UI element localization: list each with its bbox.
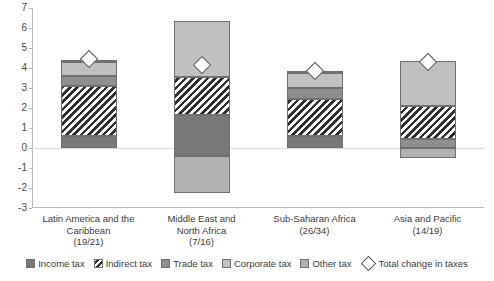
category-label-latin-america-and-the-caribbean: Latin America and theCaribbean(19/21)	[32, 213, 145, 248]
y-axis-tick-mark	[29, 188, 32, 189]
bar-segment-other[interactable]	[174, 156, 230, 193]
legend-item-corporate[interactable]: Corporate tax	[222, 258, 292, 269]
legend-label: Indirect tax	[106, 258, 152, 269]
category-label-line: Sub-Saharan Africa	[258, 213, 371, 225]
legend-label: Trade tax	[173, 258, 213, 269]
y-axis-tick-label: 4	[21, 63, 27, 73]
chart-legend: Income taxIndirect taxTrade taxCorporate…	[0, 258, 494, 269]
y-axis-tick-label: 2	[21, 103, 27, 113]
legend-item-income[interactable]: Income tax	[26, 258, 84, 269]
y-axis-tick-mark	[29, 108, 32, 109]
y-axis-tick-mark	[29, 28, 32, 29]
y-axis-tick-mark	[29, 168, 32, 169]
bar-segment-indirect[interactable]	[400, 106, 456, 139]
legend-label: Total change in taxes	[379, 258, 468, 269]
bar-asia-and-pacific[interactable]	[400, 8, 456, 208]
bar-segment-trade[interactable]	[287, 88, 343, 99]
category-label-line: North Africa	[145, 225, 258, 237]
category-label-line: Middle East and	[145, 213, 258, 225]
diamond-marker-icon	[360, 256, 376, 272]
bar-segment-indirect[interactable]	[61, 86, 117, 136]
bar-middle-east-and-north-africa[interactable]	[174, 8, 230, 208]
y-axis-tick-label: -3	[18, 203, 27, 213]
bar-segment-indirect[interactable]	[287, 99, 343, 136]
hatched-swatch-icon	[94, 259, 103, 268]
category-label-line: (7/16)	[145, 236, 258, 248]
square-swatch-icon	[161, 259, 170, 268]
bar-segment-indirect[interactable]	[174, 77, 230, 115]
y-axis-tick-label: 6	[21, 23, 27, 33]
bar-segment-other[interactable]	[400, 148, 456, 158]
category-label-sub-saharan-africa: Sub-Saharan Africa(26/34)	[258, 213, 371, 236]
bar-segment-income[interactable]	[287, 136, 343, 148]
y-axis-tick-label: 3	[21, 83, 27, 93]
y-axis-tick-mark	[29, 208, 32, 209]
category-label-line: Latin America and the	[32, 213, 145, 225]
y-axis-tick-label: -1	[18, 163, 27, 173]
category-label-line: (19/21)	[32, 236, 145, 248]
category-label-middle-east-and-north-africa: Middle East andNorth Africa(7/16)	[145, 213, 258, 248]
category-label-line: Caribbean	[32, 225, 145, 237]
bar-sub-saharan-africa[interactable]	[287, 8, 343, 208]
legend-label: Income tax	[38, 258, 84, 269]
plot-area: 76543210-1-2-3	[32, 8, 484, 208]
y-axis-tick-label: -2	[18, 183, 27, 193]
y-axis-tick-label: 7	[21, 3, 27, 13]
bar-segment-trade[interactable]	[61, 76, 117, 86]
y-axis-tick-mark	[29, 48, 32, 49]
y-axis-tick-mark	[29, 8, 32, 9]
legend-label: Corporate tax	[234, 258, 292, 269]
square-swatch-icon	[222, 259, 231, 268]
y-axis-tick-label: 5	[21, 43, 27, 53]
y-axis-tick-label: 1	[21, 123, 27, 133]
category-label-line: Asia and Pacific	[371, 213, 484, 225]
legend-item-diamond[interactable]: Total change in taxes	[361, 258, 468, 269]
bar-segment-trade[interactable]	[400, 139, 456, 148]
category-label-asia-and-pacific: Asia and Pacific(14/19)	[371, 213, 484, 236]
y-axis-tick-label: 0	[21, 143, 27, 153]
y-axis-tick-mark	[29, 68, 32, 69]
tax-change-stacked-bar-chart: 76543210-1-2-3 Latin America and theCari…	[0, 0, 494, 281]
square-swatch-icon	[300, 259, 309, 268]
y-axis-tick-mark	[29, 128, 32, 129]
y-axis-tick-mark	[29, 88, 32, 89]
category-label-line: (14/19)	[371, 225, 484, 237]
legend-item-trade[interactable]: Trade tax	[161, 258, 213, 269]
legend-item-other[interactable]: Other tax	[300, 258, 351, 269]
legend-item-indirect[interactable]: Indirect tax	[94, 258, 152, 269]
bar-segment-income[interactable]	[174, 115, 230, 156]
bar-latin-america-and-the-caribbean[interactable]	[61, 8, 117, 208]
bar-segment-income[interactable]	[61, 136, 117, 148]
legend-label: Other tax	[312, 258, 351, 269]
square-swatch-icon	[26, 259, 35, 268]
category-label-line: (26/34)	[258, 225, 371, 237]
y-axis-tick-mark	[29, 148, 32, 149]
